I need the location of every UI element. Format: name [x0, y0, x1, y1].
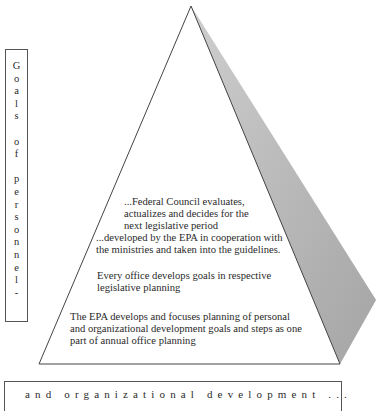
level-line: legislative planning — [97, 282, 297, 294]
side-label-letter: s — [14, 110, 18, 123]
pyramid-level-2-text: ...developed by the EPA in cooperation w… — [96, 232, 296, 256]
side-label-letter: o — [14, 224, 19, 237]
side-label-letter: p — [14, 173, 19, 186]
level-line: Every office develops goals in respectiv… — [97, 270, 297, 282]
level-line: part of annual office planning — [70, 335, 340, 347]
pyramid-level-1-text: ...Federal Council evaluates, actualizes… — [124, 196, 274, 233]
level-line: the ministries and taken into the guidel… — [96, 244, 296, 256]
pyramid-level-3-text: Every office develops goals in respectiv… — [97, 270, 297, 294]
side-label-letter: - — [15, 287, 19, 300]
level-line: next legislative period — [124, 220, 274, 232]
side-label-letter: a — [14, 85, 19, 98]
side-label-box: G o a l s o f p e r s o n n e l - — [5, 49, 28, 322]
side-label-letter: n — [14, 249, 19, 262]
side-label-letter: l — [15, 274, 18, 287]
side-label-letter: s — [14, 211, 18, 224]
side-label-letter: l — [15, 98, 18, 111]
level-line: actualizes and decides for the — [124, 208, 274, 220]
side-label-letter: n — [14, 236, 19, 249]
side-label-letter: e — [14, 262, 19, 275]
side-label-letter: f — [15, 148, 19, 161]
bottom-label-text: and organizational development ... — [25, 388, 352, 400]
pyramid-level-4-text: The EPA develops and focuses planning of… — [70, 311, 340, 348]
level-line: ...Federal Council evaluates, — [124, 196, 274, 208]
side-label-letter: o — [14, 73, 19, 86]
side-label-letter: G — [13, 60, 21, 73]
side-label-letter: r — [15, 199, 19, 212]
level-line: and organizational development goals and… — [70, 323, 340, 335]
side-label-letter: e — [14, 186, 19, 199]
side-label-letter: o — [14, 136, 19, 149]
level-line: ...developed by the EPA in cooperation w… — [96, 232, 296, 244]
bottom-label-box: and organizational development ... — [4, 381, 342, 411]
level-line: The EPA develops and focuses planning of… — [70, 311, 340, 323]
